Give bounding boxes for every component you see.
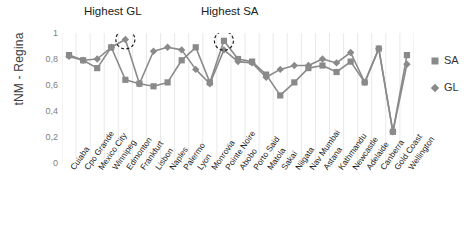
- marker-sa: [348, 59, 354, 65]
- marker-sa: [333, 69, 339, 75]
- legend-marker-gl: [429, 82, 441, 94]
- legend-marker-sa: [429, 55, 441, 67]
- marker-sa: [94, 65, 100, 71]
- x-axis-tick-labels: CuiabaCpo GrandeMexico CityWinnipegEdmon…: [0, 164, 475, 245]
- marker-gl: [150, 48, 157, 55]
- marker-gl: [277, 66, 284, 73]
- marker-sa: [165, 79, 171, 85]
- line-chart: tNM - Regina 00,20,40,60,81 Highest GL H…: [0, 0, 475, 245]
- marker-sa: [404, 52, 410, 58]
- marker-sa: [277, 92, 283, 98]
- annotation-highest-gl-label: Highest GL: [84, 5, 142, 17]
- legend-item-sa: SA: [444, 54, 459, 66]
- legend-item-gl: GL: [444, 81, 459, 93]
- marker-gl: [319, 55, 326, 62]
- y-tick-0-6: 0,6: [38, 80, 58, 90]
- y-tick-0-8: 0,8: [38, 54, 58, 64]
- marker-sa: [193, 44, 199, 50]
- marker-gl: [164, 44, 171, 51]
- marker-sa: [221, 38, 227, 44]
- y-tick-1: 1: [38, 28, 58, 38]
- marker-gl: [122, 36, 129, 43]
- y-tick-0-4: 0,4: [38, 106, 58, 116]
- marker-sa: [150, 83, 156, 89]
- series-line-sa: [69, 41, 407, 132]
- marker-gl: [291, 62, 298, 69]
- y-axis-title: tNM - Regina: [12, 4, 26, 134]
- y-tick-0-2: 0,2: [38, 132, 58, 142]
- marker-sa: [122, 77, 128, 83]
- series-line-gl: [69, 40, 407, 132]
- marker-sa: [319, 62, 325, 68]
- annotation-highest-sa-label: Highest SA: [201, 5, 259, 17]
- marker-sa: [179, 57, 185, 63]
- marker-sa: [291, 79, 297, 85]
